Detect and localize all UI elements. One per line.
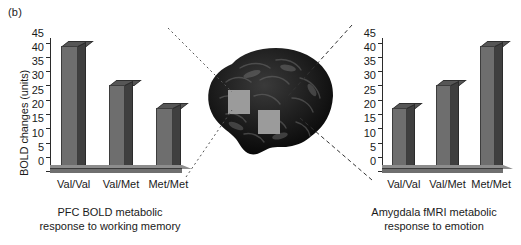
y-tick-label: 40: [32, 41, 44, 52]
x-axis-label: Val/Val: [57, 178, 90, 190]
bar-side-face: [173, 104, 181, 169]
bar-front-face: [392, 108, 407, 169]
bar-val-val: [392, 103, 415, 169]
bar-side-face: [407, 104, 415, 169]
x-axis-label: Met/Met: [148, 178, 188, 190]
brain-svg: [196, 38, 346, 166]
x-axis-label: Val/Met: [103, 178, 139, 190]
caption-pfc-line1: PFC BOLD metabolic: [10, 205, 210, 219]
x-axis-labels-amygdala: Val/ValVal/MetMet/Met: [382, 174, 513, 190]
brain-image: [196, 38, 346, 166]
y-tick-label: 20: [364, 98, 376, 109]
caption-amygdala: Amygdala fMRI metabolic response to emot…: [348, 205, 520, 233]
bar-met-met: [480, 41, 503, 169]
y-tick-label: 20: [32, 98, 44, 109]
bar-val-val: [61, 41, 86, 169]
y-tick-label: 25: [32, 84, 44, 95]
y-tick-label: 30: [32, 70, 44, 81]
caption-amygdala-line2: response to emotion: [348, 219, 520, 233]
caption-pfc: PFC BOLD metabolic response to working m…: [10, 205, 210, 233]
caption-amygdala-line1: Amygdala fMRI metabolic: [348, 205, 520, 219]
bar-front-face: [480, 46, 495, 169]
bar-front-face: [436, 85, 451, 169]
bar-side-face: [451, 81, 459, 169]
y-tick-label: 15: [364, 113, 376, 124]
y-tick-label: 35: [32, 56, 44, 67]
bar-side-face: [78, 42, 86, 169]
y-axis-label-pfc: BOLD changes (units): [18, 64, 32, 182]
plot-area-pfc: 051015202530354045: [50, 38, 192, 172]
x-axis-labels-pfc: Val/ValVal/MetMet/Met: [50, 174, 192, 190]
prefrontal-cortex-roi: [228, 90, 250, 114]
x-axis-label: Met/Met: [471, 178, 511, 190]
bar-front-face: [109, 85, 126, 169]
chart-pfc: BOLD changes (units) 051015202530354045 …: [6, 34, 196, 194]
caption-pfc-line2: response to working memory: [10, 219, 210, 233]
y-tick-label: 0: [370, 156, 376, 167]
x-axis-label: Val/Val: [387, 178, 420, 190]
y-tick-label: 25: [364, 84, 376, 95]
axis-base-plate-amygdala: [382, 166, 513, 173]
y-tick-label: 0: [38, 156, 44, 167]
bars-amygdala: [382, 38, 513, 169]
x-axis-label: Val/Met: [429, 178, 465, 190]
y-tick-label: 10: [32, 127, 44, 138]
y-tick-label: 5: [370, 141, 376, 152]
y-tick-label: 15: [32, 113, 44, 124]
axis-base-plate-pfc: [50, 166, 192, 173]
figure-panel-b: (b) BOLD changes (units) 051015202530354…: [0, 0, 521, 245]
y-tick-label: 45: [32, 27, 44, 38]
bar-side-face: [125, 81, 133, 169]
y-tick-label: 40: [364, 41, 376, 52]
panel-label: (b): [8, 6, 22, 18]
y-tick-label: 5: [38, 141, 44, 152]
bar-val-met: [436, 80, 459, 169]
y-tick-label: 10: [364, 127, 376, 138]
y-tick-label: 30: [364, 70, 376, 81]
y-tick-label: 35: [364, 56, 376, 67]
y-tick-label: 45: [364, 27, 376, 38]
bar-met-met: [156, 103, 181, 169]
plot-area-amygdala: 051015202530354045: [382, 38, 513, 172]
bar-val-met: [109, 80, 134, 169]
chart-amygdala: 051015202530354045 Val/ValVal/MetMet/Met: [352, 34, 517, 194]
bar-front-face: [61, 46, 78, 169]
bars-pfc: [50, 38, 192, 169]
bar-front-face: [156, 108, 173, 169]
brain-outline: [208, 48, 333, 154]
bar-side-face: [495, 42, 503, 169]
amygdala-roi: [258, 110, 280, 134]
